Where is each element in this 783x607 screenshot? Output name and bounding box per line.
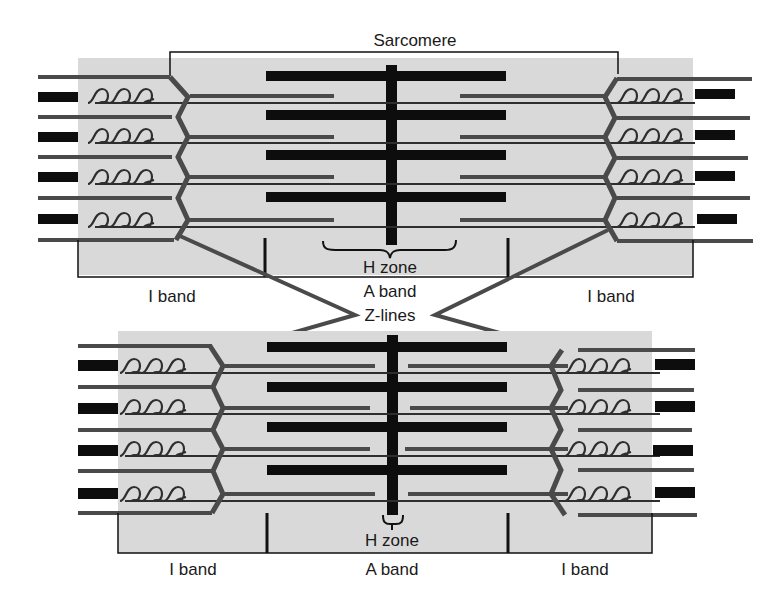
m-line-bottom — [387, 335, 398, 515]
a-band-label-bottom: A band — [366, 560, 419, 579]
band-shading-top — [78, 58, 693, 275]
h-zone-label-bottom: H zone — [365, 531, 419, 550]
m-line-top — [386, 65, 397, 245]
i-band-label-top-right: I band — [587, 287, 634, 306]
i-band-label-top-left: I band — [148, 287, 195, 306]
z-lines-label: Z-lines — [364, 306, 415, 325]
i-band-label-bottom-right: I band — [561, 560, 608, 579]
contracted-sarcomere — [78, 331, 697, 553]
sarcomere-diagram: Sarcomere — [0, 0, 783, 607]
sarcomere-label: Sarcomere — [373, 31, 456, 50]
relaxed-sarcomere: Sarcomere — [38, 31, 753, 277]
i-band-label-bottom-left: I band — [169, 560, 216, 579]
h-zone-label-top: H zone — [363, 258, 417, 277]
a-band-label-top: A band — [364, 282, 417, 301]
